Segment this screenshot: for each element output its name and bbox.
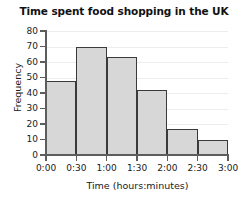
y-tick-mark	[40, 77, 45, 78]
bar	[46, 81, 76, 155]
gridline	[46, 47, 228, 48]
y-axis-title: Frequency	[12, 43, 23, 133]
y-tick-label: 0	[12, 151, 38, 160]
gridline	[46, 78, 228, 79]
x-tick-mark	[76, 156, 77, 161]
bar	[76, 47, 106, 156]
x-tick-label: 3:00	[208, 163, 248, 173]
y-tick-label: 10	[12, 135, 38, 144]
y-tick-label: 80	[12, 27, 38, 36]
plot-area	[46, 31, 228, 155]
gridline	[46, 62, 228, 63]
x-tick-mark	[45, 156, 46, 161]
chart-title: Time spent food shopping in the UK	[0, 5, 248, 17]
y-tick-mark	[40, 139, 45, 140]
bar	[107, 57, 137, 155]
x-tick-mark	[197, 156, 198, 161]
y-tick-mark	[40, 61, 45, 62]
y-tick-mark	[40, 154, 45, 155]
y-axis-line	[45, 30, 47, 156]
x-tick-mark	[136, 156, 137, 161]
gridline	[46, 31, 228, 32]
y-tick-mark	[40, 108, 45, 109]
bar	[137, 90, 167, 155]
y-tick-mark	[40, 92, 45, 93]
bar	[198, 140, 228, 156]
x-tick-mark	[167, 156, 168, 161]
bar	[167, 129, 197, 155]
chart-figure: Time spent food shopping in the UK 01020…	[0, 0, 248, 201]
y-tick-mark	[40, 46, 45, 47]
x-tick-mark	[227, 156, 228, 161]
y-tick-mark	[40, 30, 45, 31]
y-tick-mark	[40, 123, 45, 124]
x-axis-title: Time (hours:minutes)	[40, 180, 235, 191]
x-tick-mark	[106, 156, 107, 161]
